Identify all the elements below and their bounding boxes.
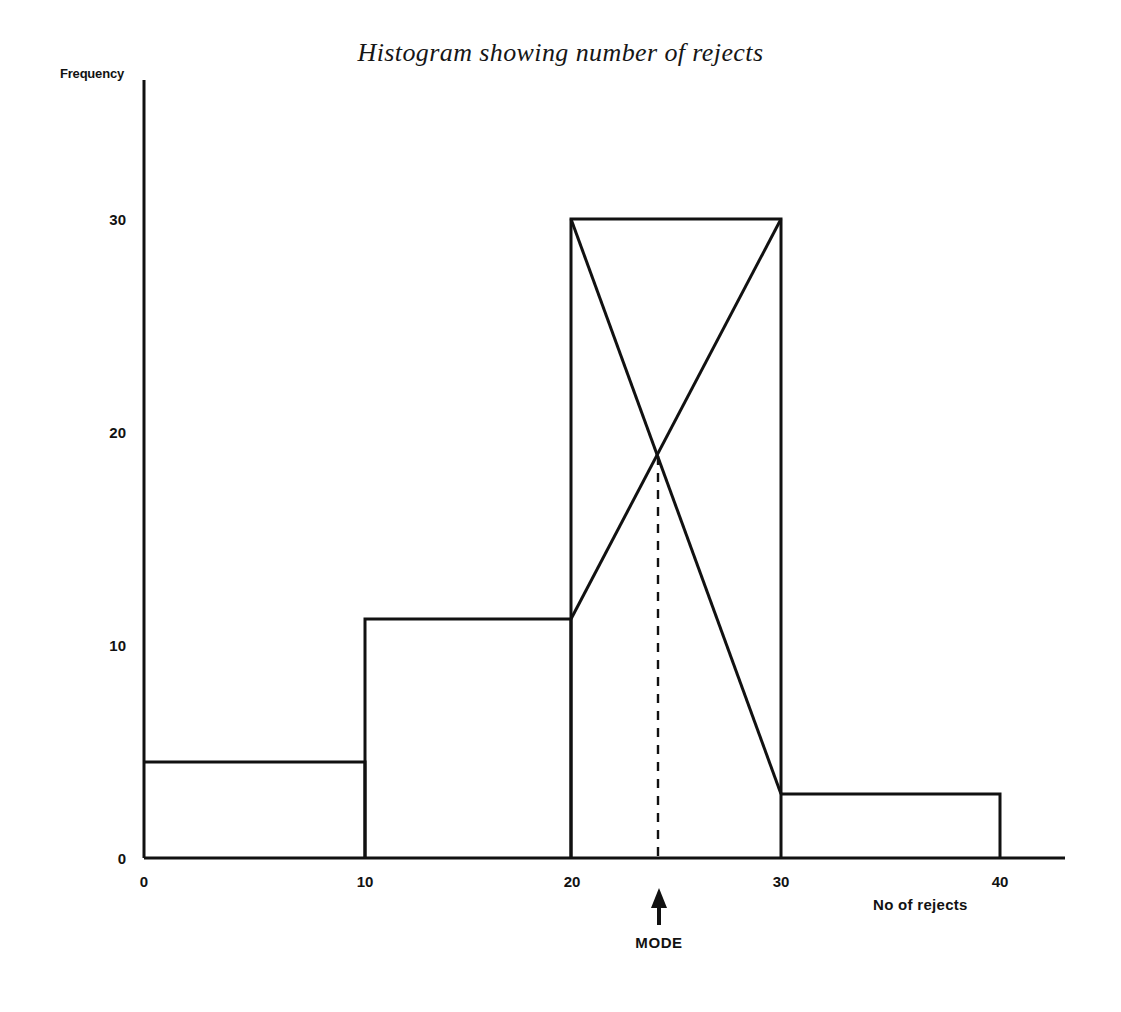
plot-area (0, 0, 1121, 1012)
mode-arrow-icon (651, 888, 667, 925)
mode-construction-line-left (571, 219, 781, 794)
histogram-bar-0-10 (144, 762, 365, 858)
histogram-bar-20-30 (571, 219, 781, 858)
mode-construction-line-right (571, 219, 781, 619)
histogram-bar-30-40 (781, 794, 1000, 858)
histogram-figure: Histogram showing number of rejects Freq… (0, 0, 1121, 1012)
histogram-bar-10-20 (365, 619, 571, 858)
